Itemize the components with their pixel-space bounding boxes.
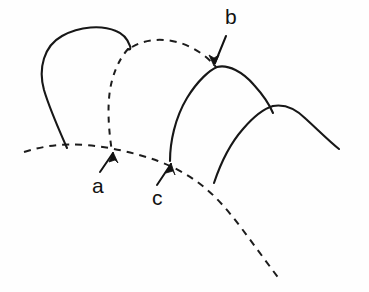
upper-dashed-arch [132,40,216,67]
arrow-c [157,163,175,185]
arrow-a [100,152,118,172]
arch-3-left-leg [214,106,273,183]
arch-3-solid [273,106,339,149]
arch-1-dashed-leg [109,49,128,152]
line-drawing-svg [0,0,369,292]
label-c: c [152,187,163,208]
label-a: a [92,175,104,196]
figure-canvas: a b c [0,0,369,292]
arch-1-solid [42,27,131,148]
baseline-dashed-curve [24,144,280,280]
arrow-b [209,36,226,66]
label-b: b [225,6,237,27]
